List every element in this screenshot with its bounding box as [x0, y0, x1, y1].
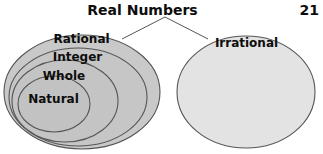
- set-label-whole: Whole: [0, 69, 128, 83]
- set-label-integer: Integer: [0, 50, 155, 64]
- diagram-page: Real Numbers 21 Rational Integer Whole N…: [0, 0, 323, 154]
- set-label-irrational: Irrational: [178, 36, 315, 50]
- page-number: 21: [300, 2, 319, 18]
- set-label-rational: Rational: [0, 32, 163, 46]
- set-label-natural: Natural: [0, 92, 107, 106]
- page-title: Real Numbers: [0, 2, 285, 18]
- irrational-ellipse: [177, 36, 315, 148]
